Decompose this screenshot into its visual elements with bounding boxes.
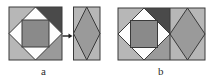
arrow-head bbox=[69, 34, 73, 39]
center-square-b bbox=[131, 21, 158, 48]
panel-a bbox=[9, 7, 100, 60]
dissection-figure bbox=[0, 0, 208, 84]
panel-b bbox=[118, 8, 205, 60]
transform-arrow-a bbox=[63, 34, 73, 39]
caption-b: b bbox=[158, 66, 164, 77]
figure-stage: a b bbox=[0, 0, 208, 84]
source-square-a bbox=[9, 7, 62, 60]
square-half-b bbox=[118, 8, 170, 60]
center-square bbox=[22, 20, 49, 47]
rhombus-half-b bbox=[170, 8, 205, 60]
caption-a: a bbox=[41, 66, 46, 77]
target-rhombus-a bbox=[74, 7, 101, 60]
